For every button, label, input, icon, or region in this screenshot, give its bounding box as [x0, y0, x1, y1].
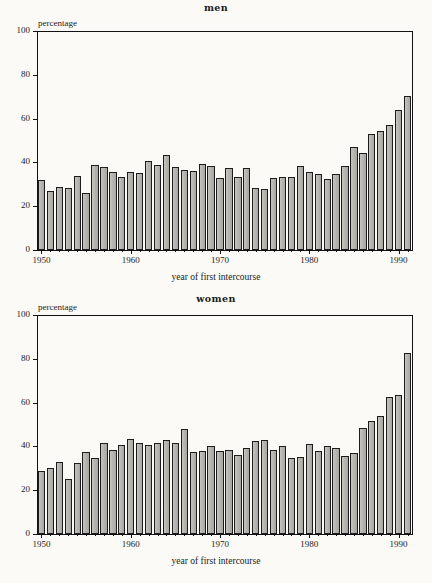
plot-right-border-men [412, 31, 413, 251]
bar-women-1980 [306, 444, 313, 534]
bar-men-1962 [145, 161, 152, 250]
x-minor-tick-women-1978 [291, 534, 292, 536]
x-minor-tick-men-1956 [95, 250, 96, 252]
y-tick-label-men-40: 40 [8, 157, 30, 166]
bar-women-1965 [172, 443, 179, 534]
x-minor-tick-men-1973 [247, 250, 248, 252]
bar-women-1954 [74, 463, 81, 534]
bar-men-1959 [118, 177, 125, 250]
bar-women-1958 [109, 450, 116, 534]
x-minor-tick-men-1978 [291, 250, 292, 252]
x-minor-tick-men-1986 [363, 250, 364, 252]
x-tick-women-1970 [220, 534, 221, 538]
x-tick-label-women-1980: 1980 [292, 540, 326, 549]
y-tick-men-0 [33, 250, 37, 251]
y-tick-men-80 [33, 75, 37, 76]
x-minor-tick-men-1963 [158, 250, 159, 252]
x-minor-tick-men-1962 [149, 250, 150, 252]
bar-men-1970 [216, 178, 223, 250]
x-minor-tick-men-1977 [283, 250, 284, 252]
bar-men-1968 [199, 164, 206, 251]
y-tick-women-20 [33, 490, 37, 491]
x-tick-label-women-1960: 1960 [114, 540, 148, 549]
bar-men-1956 [91, 165, 98, 250]
x-minor-tick-women-1971 [229, 534, 230, 536]
bar-women-1960 [127, 439, 134, 534]
x-minor-tick-women-1987 [372, 534, 373, 536]
bar-women-1974 [252, 441, 259, 534]
x-minor-tick-women-1973 [247, 534, 248, 536]
x-tick-label-men-1980: 1980 [292, 256, 326, 265]
x-minor-tick-men-1985 [354, 250, 355, 252]
bar-men-1953 [65, 188, 72, 250]
x-axis-label-women: year of first intercourse [0, 556, 432, 566]
x-minor-tick-women-1986 [363, 534, 364, 536]
x-minor-tick-men-1979 [300, 250, 301, 252]
bar-men-1960 [127, 172, 134, 250]
y-tick-label-men-100: 100 [8, 26, 30, 35]
bar-women-1950 [38, 471, 45, 535]
x-minor-tick-women-1979 [300, 534, 301, 536]
x-minor-tick-women-1982 [327, 534, 328, 536]
bar-women-1972 [234, 455, 241, 534]
bar-women-1959 [118, 445, 125, 534]
bar-men-1955 [82, 193, 89, 250]
bar-men-1982 [324, 179, 331, 250]
y-axis-label-men: percentage [38, 18, 77, 28]
x-minor-tick-women-1966 [184, 534, 185, 536]
bar-men-1976 [270, 178, 277, 250]
x-minor-tick-women-1969 [211, 534, 212, 536]
x-minor-tick-men-1974 [256, 250, 257, 252]
x-minor-tick-men-1958 [113, 250, 114, 252]
x-minor-tick-women-1963 [158, 534, 159, 536]
x-minor-tick-men-1953 [68, 250, 69, 252]
x-minor-tick-men-1965 [175, 250, 176, 252]
bar-women-1964 [163, 440, 170, 534]
x-tick-label-women-1950: 1950 [24, 540, 58, 549]
bar-women-1968 [199, 451, 206, 534]
bar-men-1954 [74, 176, 81, 250]
x-minor-tick-men-1968 [202, 250, 203, 252]
x-tick-women-1980 [309, 534, 310, 538]
x-minor-tick-women-1955 [86, 534, 87, 536]
y-tick-men-20 [33, 206, 37, 207]
plot-area-men: 02040608010019501960197019801990 [37, 31, 412, 250]
x-minor-tick-women-1953 [68, 534, 69, 536]
y-tick-women-40 [33, 446, 37, 447]
bar-women-1963 [154, 443, 161, 534]
y-tick-men-60 [33, 119, 37, 120]
x-tick-label-women-1970: 1970 [203, 540, 237, 549]
x-minor-tick-women-1981 [318, 534, 319, 536]
x-tick-label-women-1990: 1990 [382, 540, 416, 549]
panel-title-men: men [0, 2, 432, 13]
bar-women-1952 [56, 462, 63, 534]
y-tick-label-men-0: 0 [8, 245, 30, 254]
bar-men-1991 [404, 96, 411, 250]
x-minor-tick-women-1988 [381, 534, 382, 536]
bar-women-1973 [243, 448, 250, 535]
x-tick-women-1960 [131, 534, 132, 538]
bar-men-1989 [386, 125, 393, 250]
bar-women-1953 [65, 479, 72, 534]
plot-top-border-women [37, 315, 413, 316]
x-minor-tick-women-1958 [113, 534, 114, 536]
x-minor-tick-women-1951 [50, 534, 51, 536]
bar-men-1978 [288, 177, 295, 250]
bar-women-1961 [136, 443, 143, 534]
x-minor-tick-women-1965 [175, 534, 176, 536]
bar-men-1981 [315, 174, 322, 250]
y-tick-label-women-0: 0 [8, 529, 30, 538]
bar-women-1989 [386, 397, 393, 534]
bar-men-1985 [350, 147, 357, 250]
bar-men-1964 [163, 155, 170, 250]
y-tick-label-women-40: 40 [8, 441, 30, 450]
bar-men-1958 [109, 172, 116, 250]
bar-men-1988 [377, 131, 384, 250]
x-minor-tick-women-1952 [59, 534, 60, 536]
x-minor-tick-men-1976 [274, 250, 275, 252]
x-minor-tick-men-1957 [104, 250, 105, 252]
x-tick-label-men-1960: 1960 [114, 256, 148, 265]
bar-women-1977 [279, 446, 286, 534]
y-tick-label-men-60: 60 [8, 114, 30, 123]
x-minor-tick-men-1955 [86, 250, 87, 252]
